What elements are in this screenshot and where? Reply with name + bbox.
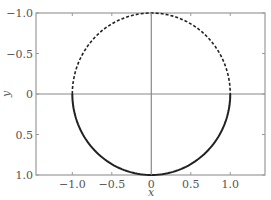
x-tick-label: −0.5 xyxy=(98,178,125,191)
y-tick-label: 0.5 xyxy=(16,129,34,142)
y-tick-label: 0 xyxy=(26,88,33,101)
y-tick-label: −1.0 xyxy=(6,7,33,20)
x-axis-label: x xyxy=(148,186,155,199)
x-axis-ticks: −1.0−0.500.51.0 xyxy=(59,13,239,191)
x-tick-label: 0.5 xyxy=(182,178,200,191)
x-tick-label: 1.0 xyxy=(222,178,240,191)
plot-area xyxy=(36,13,265,175)
x-tick-label: −1.0 xyxy=(59,178,86,191)
y-tick-label: −0.5 xyxy=(6,48,33,61)
y-tick-label: 1.0 xyxy=(16,169,34,182)
y-axis-label: y xyxy=(0,90,13,98)
circle-plot: −1.0−0.500.51.0 −1.0−0.500.51.0 x y xyxy=(0,0,271,200)
